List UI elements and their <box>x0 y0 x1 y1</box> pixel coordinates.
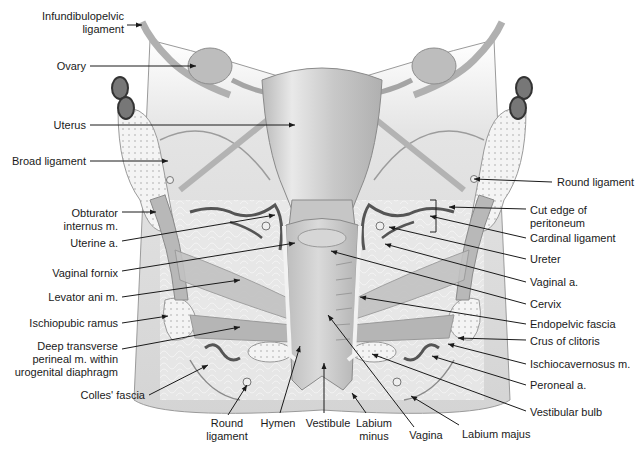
label-ureter: Ureter <box>530 253 630 266</box>
label-ischiocavernosus: Ischiocavernosus m. <box>530 358 642 371</box>
label-cervix: Cervix <box>530 298 630 311</box>
label-endopelvic-fascia: Endopelvic fascia <box>530 318 640 331</box>
label-cut-edge-peritoneum: Cut edge of peritoneum <box>530 204 630 230</box>
anatomy-diagram: Infundibulopelvic ligamentOvaryUterusBro… <box>0 0 644 453</box>
label-ischiopubic-ramus: Ischiopubic ramus <box>2 317 118 330</box>
label-vagina: Vagina <box>404 429 448 442</box>
label-peroneal-artery: Peroneal a. <box>530 379 630 392</box>
label-vaginal-fornix: Vaginal fornix <box>2 267 118 280</box>
label-cardinal-ligament: Cardinal ligament <box>530 232 630 245</box>
label-broad-ligament: Broad ligament <box>2 155 86 168</box>
label-obturator-internus: Obturator internus m. <box>2 207 118 233</box>
label-vestibule: Vestibule <box>300 417 356 430</box>
label-vaginal-artery: Vaginal a. <box>530 276 630 289</box>
label-uterine-artery: Uterine a. <box>2 237 118 250</box>
label-uterus: Uterus <box>2 119 86 132</box>
label-deep-transverse-perineal: Deep transverse perineal m. within uroge… <box>2 340 118 379</box>
label-labium-majus: Labium majus <box>462 428 546 441</box>
label-round-ligament-bottom: Round ligament <box>202 417 252 443</box>
label-hymen: Hymen <box>256 417 300 430</box>
label-labium-minus: Labium minus <box>352 417 396 443</box>
label-infundibulopelvic-ligament: Infundibulopelvic ligament <box>2 10 124 36</box>
label-ovary: Ovary <box>2 60 86 73</box>
label-crus-of-clitoris: Crus of clitoris <box>530 335 640 348</box>
vagina <box>284 219 360 391</box>
label-vestibular-bulb: Vestibular bulb <box>530 406 630 419</box>
leader-obturator-internus <box>122 210 156 215</box>
label-levator-ani: Levator ani m. <box>2 291 118 304</box>
label-round-ligament-right: Round ligament <box>557 176 643 189</box>
label-colles-fascia: Colles' fascia <box>2 389 145 402</box>
